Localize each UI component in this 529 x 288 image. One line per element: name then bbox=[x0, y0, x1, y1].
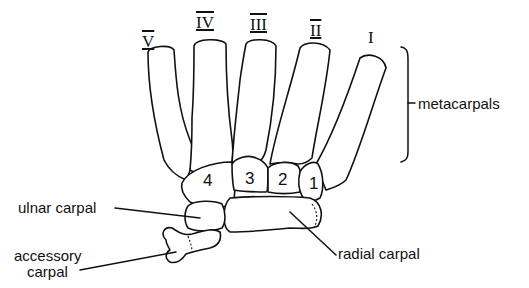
bone-drawing bbox=[0, 0, 529, 288]
metacarpal-iv bbox=[190, 40, 233, 174]
metacarpals-bracket bbox=[401, 47, 408, 162]
label-metacarpal-ii: II bbox=[310, 22, 321, 40]
label-ulnar-carpal: ulnar carpal bbox=[18, 200, 96, 216]
label-metacarpal-i: I bbox=[368, 29, 374, 47]
metacarpal-iii bbox=[232, 40, 276, 164]
label-carpal-1: 1 bbox=[309, 175, 318, 193]
accessory-carpal bbox=[163, 228, 220, 263]
ulnar-carpal bbox=[185, 201, 225, 231]
label-metacarpals: metacarpals bbox=[418, 96, 500, 112]
label-accessory-carpal-line1: accessory bbox=[14, 248, 82, 264]
metacarpal-v bbox=[148, 46, 193, 180]
leader-accessory-carpal bbox=[80, 252, 176, 270]
metacarpal-ii bbox=[270, 43, 330, 164]
label-metacarpal-iii: III bbox=[250, 16, 267, 34]
label-accessory-carpal-line2: carpal bbox=[27, 264, 68, 280]
label-metacarpal-v: V bbox=[142, 33, 154, 51]
label-carpal-2: 2 bbox=[278, 171, 287, 189]
label-carpal-3: 3 bbox=[245, 170, 254, 188]
wrist-bones-diagram: V IV III II I 4 3 2 1 metacarpals ulnar … bbox=[0, 0, 529, 288]
label-metacarpal-iv: IV bbox=[196, 14, 214, 32]
label-radial-carpal: radial carpal bbox=[338, 246, 420, 262]
label-carpal-4: 4 bbox=[203, 172, 212, 190]
